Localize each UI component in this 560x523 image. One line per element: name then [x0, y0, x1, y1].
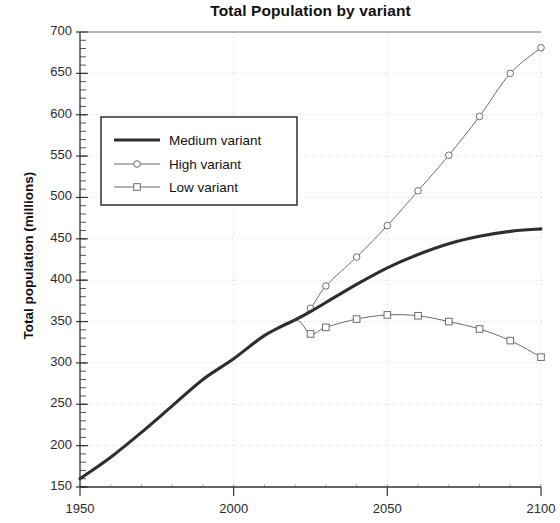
y-tick-label: 700 — [26, 23, 72, 38]
series-high-variant — [80, 44, 544, 478]
data-point-marker — [323, 324, 330, 331]
data-point-marker — [415, 312, 422, 319]
y-tick-label: 450 — [26, 230, 72, 245]
y-tick-label: 500 — [26, 188, 72, 203]
data-point-marker — [415, 188, 422, 195]
axis-lines — [80, 32, 541, 487]
legend-marker-square — [134, 184, 141, 191]
data-point-marker — [538, 354, 545, 361]
y-tick-label: 250 — [26, 395, 72, 410]
data-point-marker — [384, 222, 391, 229]
series-line — [80, 229, 541, 479]
data-point-marker — [476, 326, 483, 333]
data-point-marker — [507, 70, 514, 77]
legend-marker-circle — [134, 161, 141, 168]
data-point-marker — [446, 318, 453, 325]
series-line — [80, 315, 541, 479]
legend-label: Medium variant — [169, 133, 262, 148]
y-tick-label: 550 — [26, 147, 72, 162]
data-point-marker — [323, 283, 330, 290]
x-tick-label: 1950 — [45, 501, 115, 516]
legend-label: High variant — [169, 157, 241, 172]
series-line — [80, 48, 541, 479]
data-point-marker — [353, 316, 360, 323]
data-point-marker — [507, 337, 514, 344]
y-tick-label: 200 — [26, 437, 72, 452]
x-tick-label: 2100 — [506, 501, 560, 516]
data-series-layer — [80, 44, 544, 478]
data-point-marker — [384, 312, 391, 319]
data-point-marker — [476, 113, 483, 120]
gridlines — [80, 32, 541, 487]
y-tick-label: 150 — [26, 478, 72, 493]
chart-legend: Medium variantHigh variantLow variant — [101, 117, 297, 205]
y-tick-label: 650 — [26, 64, 72, 79]
data-point-marker — [446, 152, 453, 159]
y-tick-label: 350 — [26, 313, 72, 328]
data-point-marker — [307, 331, 314, 338]
y-tick-label: 600 — [26, 106, 72, 121]
series-medium-variant — [80, 229, 541, 479]
x-tick-label: 2000 — [199, 501, 269, 516]
data-point-marker — [353, 254, 360, 261]
series-low-variant — [80, 312, 544, 479]
axis-major-ticks — [76, 32, 541, 496]
data-point-marker — [538, 44, 545, 51]
x-tick-label: 2050 — [352, 501, 422, 516]
y-tick-label: 300 — [26, 354, 72, 369]
axis-minor-ticks — [80, 32, 541, 487]
y-tick-label: 400 — [26, 271, 72, 286]
chart-title: Total Population by variant — [80, 2, 541, 20]
legend-label: Low variant — [169, 180, 238, 195]
